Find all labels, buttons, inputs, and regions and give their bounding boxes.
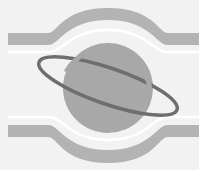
planet-logo [0,0,199,170]
planet-ring-icon [0,0,199,170]
